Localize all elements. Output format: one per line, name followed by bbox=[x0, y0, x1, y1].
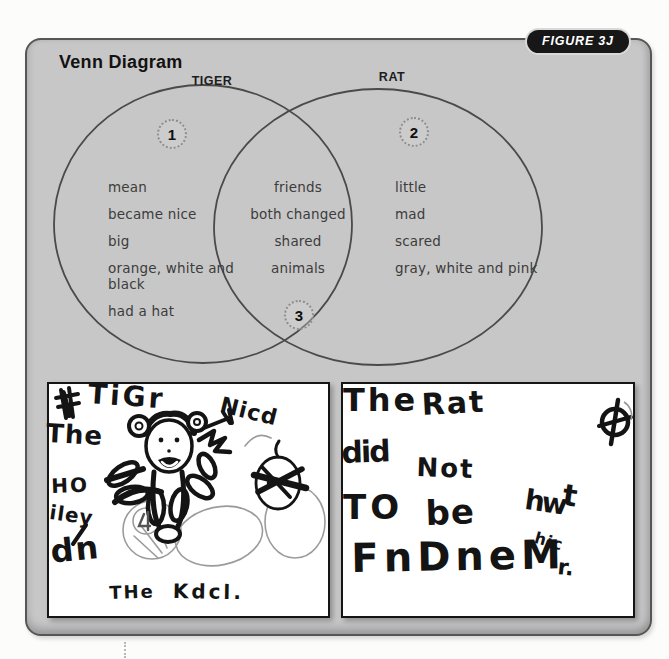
venn-list-rat: littlemadscaredgray, white and pink bbox=[395, 179, 555, 287]
venn-item: became nice bbox=[108, 206, 240, 222]
handwriting-word: did bbox=[341, 436, 389, 468]
venn-label-tiger: TIGER bbox=[172, 74, 252, 88]
handwriting-word: Not bbox=[416, 454, 475, 482]
venn-item: orange, white and black bbox=[108, 260, 240, 292]
handwriting-word: HO bbox=[51, 475, 89, 496]
handwriting-word: be bbox=[425, 494, 476, 530]
student-writing-rat: TheRatdidNotTObehwthicFnDneMr. bbox=[341, 382, 635, 618]
venn-item: little bbox=[395, 179, 555, 195]
figure-label: FIGURE 3J bbox=[527, 30, 629, 53]
scanned-page: { "figure_badge": "FIGURE 3J", "title": … bbox=[0, 0, 669, 659]
page-tick-mark bbox=[124, 642, 126, 658]
venn-item: scared bbox=[395, 233, 555, 249]
handwriting-word: The bbox=[46, 420, 104, 449]
handwriting-word: iley bbox=[48, 502, 95, 528]
venn-item: both changed bbox=[233, 206, 363, 222]
handwriting-word: dn bbox=[49, 531, 102, 568]
handwriting-word: hw bbox=[523, 486, 566, 519]
venn-item: had a hat bbox=[108, 303, 240, 319]
handwriting-word: THe bbox=[109, 582, 155, 602]
venn-region-number-1: 1 bbox=[157, 119, 187, 149]
venn-list-shared: friendsboth changedsharedanimals bbox=[233, 179, 363, 287]
venn-item: mean bbox=[108, 179, 240, 195]
figure-panel: Venn Diagram TIGER RAT 1 2 3 meanbecame … bbox=[25, 38, 652, 636]
handwriting-word: Kdcl. bbox=[173, 581, 244, 602]
venn-label-rat: RAT bbox=[352, 70, 432, 84]
handwriting-word: The bbox=[343, 384, 418, 416]
venn-item: friends bbox=[233, 179, 363, 195]
venn-item: animals bbox=[233, 260, 363, 276]
venn-item: mad bbox=[395, 206, 555, 222]
handwriting-word: Rat bbox=[421, 387, 486, 420]
handwriting-word: TO bbox=[343, 490, 403, 524]
handwriting-word: FnDneM bbox=[351, 534, 566, 578]
venn-item: shared bbox=[233, 233, 363, 249]
venn-list-tiger: meanbecame nicebigorange, white and blac… bbox=[108, 179, 240, 330]
venn-region-number-3: 3 bbox=[284, 300, 314, 330]
venn-item: big bbox=[108, 233, 240, 249]
student-drawing-tiger: TiGrTheNicdHOileydnTHeKdcl. bbox=[47, 382, 330, 618]
venn-region-number-2: 2 bbox=[399, 117, 429, 147]
handwriting-word: TiGr bbox=[87, 380, 166, 413]
handwriting-word: r. bbox=[557, 556, 575, 580]
venn-item: gray, white and pink bbox=[395, 260, 555, 276]
